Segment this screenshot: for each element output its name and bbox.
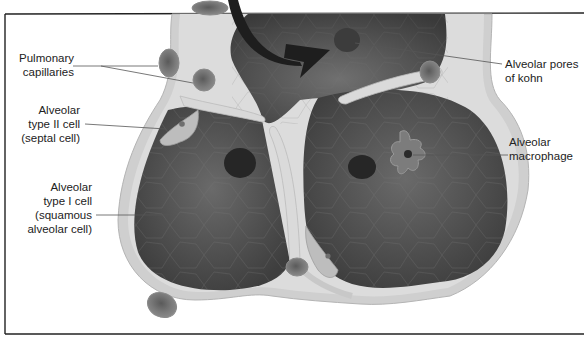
label-line: Alveolar pores <box>505 57 584 71</box>
label-pulmonary-capillaries: Pulmonary capillaries <box>14 51 74 79</box>
pore-left <box>224 148 256 178</box>
label-line: alveolar cell) <box>14 222 92 236</box>
label-line: Alveolar <box>14 103 80 117</box>
label-line: macrophage <box>509 149 584 163</box>
label-line: of kohn <box>505 71 584 85</box>
right-alveolus <box>303 89 507 287</box>
pore-of-kohn-top <box>334 28 360 52</box>
label-line: (septal cell) <box>14 131 80 145</box>
label-line: (squamous <box>14 208 92 222</box>
label-line: Alveolar <box>509 135 584 149</box>
label-line: type I cell <box>14 194 92 208</box>
diagram-canvas <box>0 0 584 339</box>
alveoli-diagram: Pulmonary capillaries Alveolar type II c… <box>0 0 584 339</box>
label-line: Alveolar <box>14 180 92 194</box>
label-alveolar-type-ii-cell: Alveolar type II cell (septal cell) <box>14 103 80 145</box>
label-alveolar-macrophage: Alveolar macrophage <box>509 135 584 163</box>
label-alveolar-type-i-cell: Alveolar type I cell (squamous alveolar … <box>14 180 92 236</box>
pore-right <box>348 155 376 179</box>
label-alveolar-pores-of-kohn: Alveolar pores of kohn <box>505 57 584 85</box>
label-line: capillaries <box>14 65 74 79</box>
label-line: type II cell <box>14 117 80 131</box>
label-line: Pulmonary <box>14 51 74 65</box>
